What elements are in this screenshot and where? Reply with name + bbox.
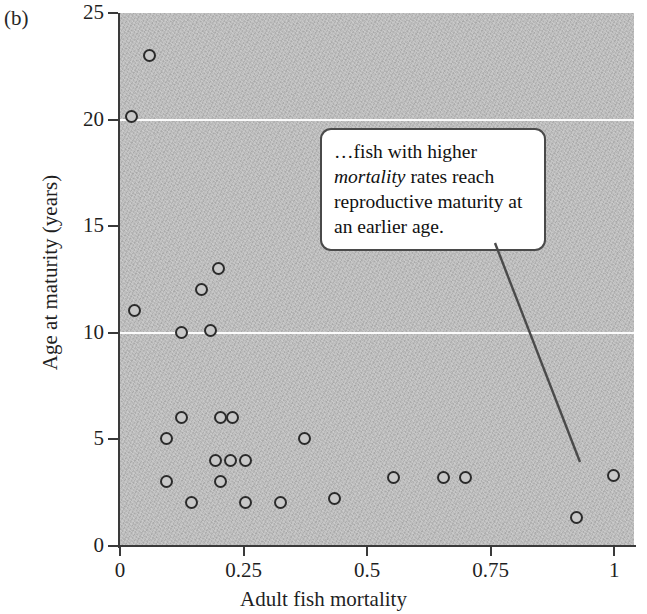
data-point	[160, 432, 173, 445]
x-tick-mark	[243, 546, 245, 556]
data-point	[195, 283, 208, 296]
data-point	[607, 469, 620, 482]
plot-area	[120, 13, 634, 546]
y-axis-line	[118, 13, 120, 548]
callout-text-before: …fish with higher	[334, 141, 477, 162]
data-point	[175, 326, 188, 339]
callout-emphasis-word: mortality	[334, 166, 406, 187]
y-axis-label: Age at maturity (years)	[40, 123, 61, 423]
data-point	[239, 454, 252, 467]
gridline	[120, 119, 634, 121]
y-tick-label: 25	[40, 2, 104, 23]
figure-panel: (b) 0510152025 00.250.50.751 Adult fish …	[0, 0, 647, 614]
x-tick-label: 0	[115, 560, 126, 581]
plot-background-texture	[120, 13, 634, 546]
x-tick-mark	[490, 546, 492, 556]
data-point	[387, 471, 400, 484]
data-point	[437, 471, 450, 484]
data-point	[160, 475, 173, 488]
data-point	[175, 411, 188, 424]
gridline	[120, 332, 634, 334]
x-tick-label: 0.75	[472, 560, 509, 581]
y-tick-mark	[108, 438, 118, 440]
y-tick-mark	[108, 225, 118, 227]
data-point	[328, 492, 341, 505]
data-point	[214, 475, 227, 488]
x-tick-mark	[613, 546, 615, 556]
data-point	[185, 496, 198, 509]
data-point	[224, 454, 237, 467]
data-point	[128, 304, 141, 317]
x-axis-label: Adult fish mortality	[0, 589, 647, 610]
data-point	[459, 471, 472, 484]
y-tick-label: 5	[40, 428, 104, 449]
panel-label: (b)	[4, 8, 29, 29]
x-tick-label: 0.5	[354, 560, 380, 581]
data-point	[226, 411, 239, 424]
x-axis-line	[118, 545, 636, 547]
y-tick-mark	[108, 12, 118, 14]
x-tick-label: 1	[609, 560, 620, 581]
data-point	[298, 432, 311, 445]
data-point	[143, 49, 156, 62]
data-point	[204, 324, 217, 337]
y-tick-label: 0	[40, 535, 104, 556]
y-tick-mark	[108, 332, 118, 334]
data-point	[125, 110, 138, 123]
x-tick-mark	[366, 546, 368, 556]
callout-annotation: …fish with higher mortality rates reach …	[320, 128, 546, 251]
data-point	[209, 454, 222, 467]
data-point	[212, 262, 225, 275]
data-point	[239, 496, 252, 509]
data-point	[274, 496, 287, 509]
data-point	[570, 511, 583, 524]
x-tick-label: 0.25	[225, 560, 262, 581]
y-tick-mark	[108, 545, 118, 547]
y-tick-mark	[108, 119, 118, 121]
x-tick-mark	[119, 546, 121, 556]
